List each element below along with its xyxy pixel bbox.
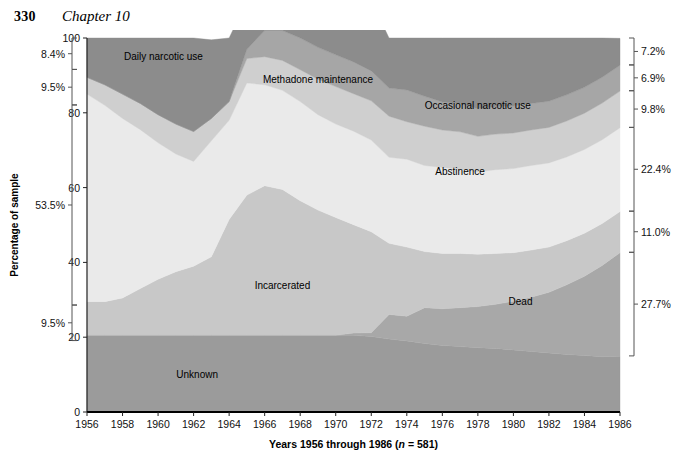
- series-label-abstinence: Abstinence: [435, 166, 485, 177]
- x-tick-label: 1972: [360, 418, 384, 430]
- y-tick-label: 100: [62, 32, 80, 44]
- left-percent-label: 9.5%: [41, 81, 65, 93]
- y-tick-label: 20: [68, 331, 80, 343]
- x-axis-title: Years 1956 through 1986 (n = 581): [269, 438, 438, 450]
- y-tick-label: 60: [68, 182, 80, 194]
- series-label-methadone-maintenance: Methadone maintenance: [263, 74, 374, 85]
- x-tick-label: 1986: [608, 418, 632, 430]
- x-tick-label: 1958: [111, 418, 135, 430]
- right-percent-label: 27.7%: [641, 298, 671, 310]
- x-tick-label: 1966: [253, 418, 277, 430]
- series-label-unknown: Unknown: [176, 369, 218, 380]
- right-percent-bracket: [629, 127, 634, 211]
- right-percent-bracket: [629, 252, 634, 356]
- x-tick-label: 1974: [395, 418, 419, 430]
- right-percent-label: 7.2%: [641, 45, 665, 57]
- x-tick-label: 1976: [431, 418, 455, 430]
- stacked-area-chart: 0204060801008.4%9.5%53.5%9.5% 7.2%6.9%9.…: [0, 30, 693, 458]
- y-tick-label: 80: [68, 107, 80, 119]
- x-tick-label: 1964: [217, 418, 241, 430]
- x-tick-label: 1984: [573, 418, 597, 430]
- x-axis: 1956195819601962196419661968197019721974…: [75, 412, 632, 430]
- x-tick-label: 1962: [182, 418, 206, 430]
- y-tick-label: 0: [74, 406, 80, 418]
- right-percent-label: 22.4%: [641, 163, 671, 175]
- x-tick-label: 1956: [75, 418, 99, 430]
- left-percent-bracket: [72, 69, 77, 105]
- left-percent-label: 8.4%: [41, 48, 65, 60]
- x-tick-label: 1982: [537, 418, 561, 430]
- right-percent-label: 9.8%: [641, 103, 665, 115]
- series-label-dead: Dead: [509, 296, 533, 307]
- page-number: 330: [14, 9, 36, 25]
- x-tick-label: 1970: [324, 418, 348, 430]
- y-axis-title: Percentage of sample: [9, 173, 20, 277]
- right-percent-bracket: [629, 38, 634, 65]
- chart-areas: [87, 30, 620, 412]
- left-percent-bracket: [72, 105, 77, 305]
- right-percent-label: 6.9%: [641, 72, 665, 84]
- y-tick-label: 40: [68, 256, 80, 268]
- series-label-occasional-narcotic-use: Occasional narcotic use: [425, 100, 532, 111]
- right-percent-label: 11.0%: [641, 226, 670, 238]
- x-tick-label: 1978: [466, 418, 490, 430]
- x-tick-label: 1960: [146, 418, 170, 430]
- running-head: 330 Chapter 10: [14, 8, 130, 25]
- left-percent-label: 9.5%: [41, 317, 65, 329]
- x-tick-label: 1980: [502, 418, 526, 430]
- right-percent-bracket: [629, 211, 634, 252]
- right-percent-axis: 7.2%6.9%9.8%22.4%11.0%27.7%: [629, 38, 671, 356]
- right-percent-bracket: [629, 65, 634, 91]
- chapter-title: Chapter 10: [62, 8, 130, 25]
- right-percent-bracket: [629, 91, 634, 128]
- left-percent-label: 53.5%: [35, 199, 65, 211]
- chart-svg: 0204060801008.4%9.5%53.5%9.5% 7.2%6.9%9.…: [0, 30, 693, 458]
- x-tick-label: 1968: [289, 418, 313, 430]
- series-label-daily-narcotic-use: Daily narcotic use: [124, 51, 203, 62]
- series-label-incarcerated: Incarcerated: [255, 280, 311, 291]
